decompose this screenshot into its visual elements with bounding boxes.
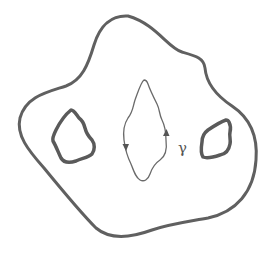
left-hole <box>53 110 95 162</box>
arrow-up-icon <box>163 129 170 136</box>
region-diagram <box>0 0 273 255</box>
gamma-curve <box>124 80 167 181</box>
right-hole <box>201 120 230 158</box>
arrow-down-icon <box>123 144 130 151</box>
outer-boundary <box>19 16 256 237</box>
gamma-label: γ <box>178 141 187 156</box>
